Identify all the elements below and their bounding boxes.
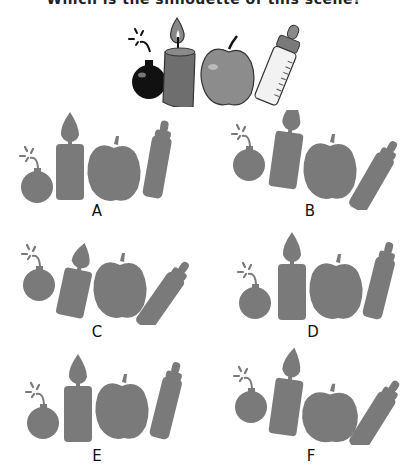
option-c[interactable]: C — [0, 225, 200, 345]
candle-silhouette-icon — [268, 110, 308, 190]
option-label: D — [303, 323, 323, 341]
option-label: B — [300, 202, 320, 220]
bomb-silhouette-icon — [26, 383, 59, 439]
apple-icon — [201, 36, 254, 105]
apple-silhouette-icon — [93, 253, 146, 318]
candle-silhouette-icon — [64, 354, 92, 442]
bomb-silhouette-icon — [238, 263, 271, 319]
bottle-silhouette-icon — [149, 360, 187, 441]
apple-silhouette-icon — [309, 254, 362, 319]
apple-silhouette-icon — [303, 134, 356, 199]
bomb-silhouette-icon — [22, 245, 55, 301]
question-title: Which is the silhouette of this scene? — [0, 0, 408, 7]
bomb-silhouette-icon — [234, 367, 267, 423]
option-d[interactable]: D — [208, 225, 408, 345]
apple-silhouette-icon — [302, 384, 358, 442]
bomb-silhouette-icon — [232, 125, 265, 181]
candle-icon — [163, 18, 195, 107]
candle-silhouette-icon — [56, 112, 84, 200]
bottle-silhouette-icon — [142, 119, 175, 199]
bomb-silhouette-icon — [20, 147, 53, 203]
reference-scene — [125, 12, 300, 107]
baby-bottle-icon — [254, 21, 300, 106]
option-e[interactable]: E — [0, 345, 200, 465]
option-a[interactable]: A — [0, 110, 200, 230]
candle-silhouette-icon — [278, 232, 306, 320]
option-label: C — [87, 323, 107, 341]
option-label: F — [301, 447, 321, 465]
option-f[interactable]: F — [208, 345, 408, 465]
bomb-icon — [129, 29, 166, 99]
bottle-silhouette-icon — [362, 240, 400, 321]
candle-silhouette-icon — [268, 346, 308, 437]
apple-silhouette-icon — [95, 374, 148, 439]
candle-silhouette-icon — [55, 240, 98, 319]
option-label: A — [87, 202, 107, 220]
option-b[interactable]: B — [208, 110, 408, 230]
apple-silhouette-icon — [87, 136, 140, 201]
option-label: E — [87, 447, 107, 465]
